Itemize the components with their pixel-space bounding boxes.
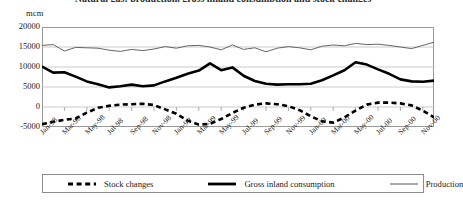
chart-legend: Stock changes Gross inland consumption P… <box>42 174 424 193</box>
x-tick-label: Nov-00 <box>419 113 442 136</box>
legend-label-production: Production <box>426 179 463 189</box>
x-tick-label: Jul-99 <box>240 116 260 136</box>
x-tick-label: Mar-98 <box>60 114 83 137</box>
legend-swatch-gross-inland-consumption <box>207 179 237 189</box>
x-tick-label: Sep-99 <box>262 114 284 136</box>
legend-item-stock-changes[interactable]: Stock changes <box>67 179 153 189</box>
x-tick-label: Jan-99 <box>172 115 193 136</box>
legend-swatch-stock-changes <box>67 179 97 189</box>
x-tick-label: Jul-00 <box>374 116 394 136</box>
x-tick-label: May-99 <box>217 113 241 137</box>
x-tick-label: Nov-98 <box>150 113 173 136</box>
x-tick-label: Jan-00 <box>307 115 328 136</box>
x-tick-label: May-00 <box>352 113 376 137</box>
legend-label-gross-inland-consumption: Gross inland consumption <box>244 179 334 189</box>
legend-item-production[interactable]: Production <box>389 179 463 189</box>
x-tick-label: Mar-99 <box>195 114 218 137</box>
x-tick-label: Nov-99 <box>284 113 307 136</box>
x-tick-label: Jul-98 <box>105 116 125 136</box>
x-tick-label: May-98 <box>83 113 107 137</box>
x-tick-label: Mar-00 <box>329 114 352 137</box>
x-tick-label: Sep-00 <box>396 114 418 136</box>
legend-label-stock-changes: Stock changes <box>104 179 153 189</box>
legend-item-gross-inland-consumption[interactable]: Gross inland consumption <box>207 179 334 189</box>
legend-swatch-production <box>389 179 419 189</box>
x-tick-label: Jan-98 <box>38 115 59 136</box>
x-tick-label: Sep-98 <box>128 114 150 136</box>
